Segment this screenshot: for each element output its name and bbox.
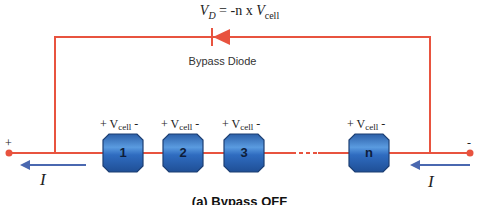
cell-3-number: 3 (224, 145, 264, 160)
right-current-label: I (428, 172, 434, 192)
left-current-label: I (40, 170, 46, 190)
cell-n-number: n (349, 145, 389, 160)
cell-n-voltage-label: + Vcell - (347, 117, 385, 132)
left-current-arrow-icon (20, 160, 86, 170)
positive-terminal-label: + (5, 136, 12, 151)
circuit-graphics (0, 0, 479, 205)
diode-icon (212, 28, 230, 46)
cell-3-voltage-label: + Vcell - (222, 117, 260, 132)
cell-1-number: 1 (103, 145, 143, 160)
cell-2-voltage-label: + Vcell - (161, 117, 199, 132)
negative-terminal-label: - (467, 136, 471, 151)
cell-2-number: 2 (163, 145, 203, 160)
cell-1-voltage-label: + Vcell - (100, 117, 138, 132)
bypass-diode-circuit-diagram: VD = -n x Vcell Bypass Diode + - + Vcell… (0, 0, 479, 205)
figure-caption: (a) Bypass OFF (0, 194, 479, 205)
right-current-arrow-icon (410, 160, 470, 170)
bypass-diode-label: Bypass Diode (160, 55, 285, 67)
diode-voltage-equation: VD = -n x Vcell (0, 3, 479, 21)
